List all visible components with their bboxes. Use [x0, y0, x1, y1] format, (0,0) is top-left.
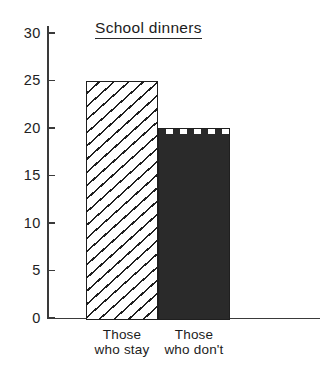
y-tick-label-5: 5	[9, 263, 41, 278]
y-tick-label-wrap-30: 30	[0, 33, 41, 34]
y-tick-label-30: 30	[9, 26, 41, 41]
y-tick-label-wrap-5: 5	[0, 271, 41, 272]
y-tick-label-10: 10	[9, 216, 41, 231]
y-tick-30	[47, 32, 55, 33]
x-label-1-line-1: who don't	[139, 342, 249, 357]
y-tick-label-wrap-15: 15	[0, 176, 41, 177]
y-tick-label-15: 15	[9, 168, 41, 183]
x-label-1-line-0: Those	[139, 327, 249, 342]
y-tick-10	[47, 222, 55, 223]
y-tick-0	[47, 317, 55, 318]
y-tick-label-0: 0	[9, 311, 41, 326]
y-tick-15	[47, 175, 55, 176]
y-tick-label-wrap-25: 25	[0, 81, 41, 82]
y-axis-line	[47, 26, 49, 319]
y-tick-label-25: 25	[9, 73, 41, 88]
y-tick-25	[47, 80, 55, 81]
chart-title: School dinners	[95, 19, 202, 39]
y-tick-label-20: 20	[9, 121, 41, 136]
y-tick-label-wrap-0: 0	[0, 318, 41, 319]
x-label-1: Thosewho don't	[139, 327, 249, 357]
y-tick-5	[47, 270, 55, 271]
bar-chart: School dinners 051015202530 Thosewho sta…	[0, 0, 331, 368]
y-tick-label-wrap-10: 10	[0, 223, 41, 224]
bar-0	[86, 81, 158, 320]
bar-1	[158, 128, 230, 320]
y-tick-20	[47, 127, 55, 128]
y-tick-label-wrap-20: 20	[0, 128, 41, 129]
